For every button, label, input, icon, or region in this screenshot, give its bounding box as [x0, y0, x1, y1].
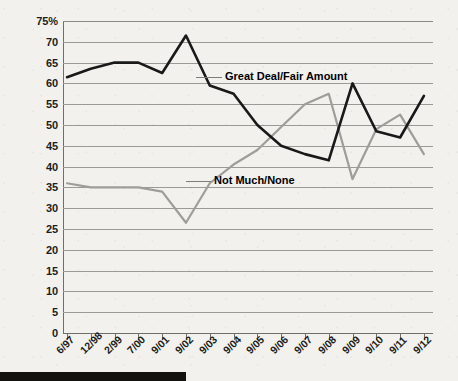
bottom-rule-bar — [0, 372, 186, 381]
x-axis-tick — [281, 334, 282, 340]
y-axis-tick-label: 60 — [46, 77, 58, 89]
y-axis-tick-label: 35 — [46, 181, 58, 193]
series-annotation-not-much: Not Much/None — [214, 174, 295, 186]
y-axis: 75%7065605550454035302520151050 — [0, 0, 58, 381]
y-axis-tick-label: 5 — [52, 306, 58, 318]
y-axis-tick-label: 15 — [46, 265, 58, 277]
y-axis-tick-label: 70 — [46, 36, 58, 48]
series-annotation-great-deal: Great Deal/Fair Amount — [225, 70, 347, 82]
y-axis-tick-label: 10 — [46, 285, 58, 297]
x-axis-tick — [162, 334, 163, 340]
y-axis-tick-label: 40 — [46, 161, 58, 173]
x-axis-tick — [210, 334, 211, 340]
y-axis-tick-label: 75% — [36, 15, 58, 27]
annotation-leader-not-much — [186, 181, 211, 182]
x-axis-tick — [91, 334, 92, 340]
x-axis-ticks — [63, 334, 433, 341]
x-axis-tick — [329, 334, 330, 340]
x-axis-tick — [305, 334, 306, 340]
x-axis-tick — [257, 334, 258, 340]
y-axis-tick-label: 25 — [46, 223, 58, 235]
y-axis-tick-label: 45 — [46, 140, 58, 152]
x-axis-tick — [115, 334, 116, 340]
x-axis-tick — [376, 334, 377, 340]
line-chart: 75%7065605550454035302520151050 6/9712/9… — [0, 0, 458, 381]
y-axis-tick-label: 20 — [46, 244, 58, 256]
y-axis-tick-label: 0 — [52, 327, 58, 339]
y-axis-tick-label: 55 — [46, 98, 58, 110]
y-axis-tick-label: 65 — [46, 57, 58, 69]
annotation-leader-great-deal — [196, 77, 222, 78]
series-line — [67, 94, 424, 223]
x-axis-tick — [138, 334, 139, 340]
x-axis-tick — [234, 334, 235, 340]
x-axis-tick — [400, 334, 401, 340]
x-axis-tick — [353, 334, 354, 340]
x-axis-tick — [67, 334, 68, 340]
x-axis-tick — [186, 334, 187, 340]
y-axis-tick-label: 30 — [46, 202, 58, 214]
y-axis-tick-label: 50 — [46, 119, 58, 131]
x-axis-tick — [424, 334, 425, 340]
